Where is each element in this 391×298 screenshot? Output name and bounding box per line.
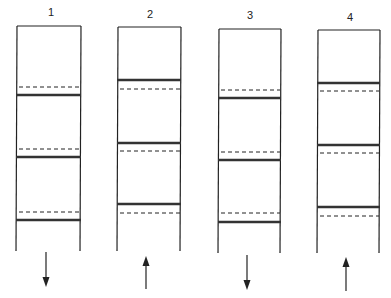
film-strip-diagram: 1234	[0, 0, 391, 298]
film-strip-4: 4	[317, 11, 380, 291]
film-strip-3: 3	[218, 9, 281, 290]
arrow-down-icon	[43, 252, 50, 287]
strip-number-label: 4	[347, 11, 353, 23]
strip-left-edge	[117, 27, 118, 251]
strip-right-edge	[180, 27, 181, 251]
strip-left-edge	[317, 30, 318, 253]
strip-right-edge	[280, 29, 281, 253]
strip-right-edge	[379, 30, 380, 253]
strip-left-edge	[16, 26, 17, 251]
strip-number-label: 1	[48, 6, 54, 18]
strip-left-edge	[218, 29, 219, 253]
strip-number-label: 3	[247, 9, 253, 21]
strip-right-edge	[80, 26, 81, 251]
arrow-down-icon	[244, 255, 251, 290]
strip-number-label: 2	[147, 8, 153, 20]
arrow-up-icon	[343, 257, 350, 291]
arrow-up-icon	[143, 256, 150, 289]
film-strip-2: 2	[117, 8, 181, 289]
film-strip-1: 1	[16, 6, 81, 287]
